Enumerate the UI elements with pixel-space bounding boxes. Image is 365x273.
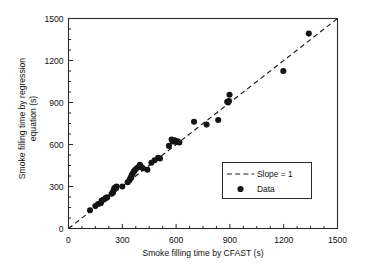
dashed-line-icon [223,167,257,181]
x-tick-label: 1500 [328,235,347,245]
x-tick-label: 1200 [274,235,293,245]
data-point [226,98,232,104]
x-tick-label: 0 [66,235,71,245]
figure-container: Smoke filling time by regression equatio… [0,0,365,273]
data-point [87,207,93,213]
data-point [306,31,312,37]
data-point [226,92,232,98]
legend-label-slope: Slope = 1 [257,169,293,179]
y-tick-label: 1200 [33,56,64,66]
legend-item-data: Data [223,181,311,197]
data-point [119,183,125,189]
y-tick-label: 600 [33,140,64,150]
filled-circle-icon [223,182,257,196]
data-point [215,117,221,123]
x-tick-label: 300 [115,235,129,245]
x-tick-label: 900 [223,235,237,245]
y-tick-label: 0 [33,224,64,234]
data-point [204,122,210,128]
data-point [114,183,120,189]
y-tick-label: 1500 [33,14,64,24]
data-point [157,155,163,161]
legend-item-slope: Slope = 1 [223,166,311,182]
data-point [191,119,197,125]
y-tick-label: 300 [33,182,64,192]
chart-legend: Slope = 1 Data [222,162,312,199]
x-tick-label: 600 [169,235,183,245]
data-point [280,68,286,74]
data-point [144,167,150,173]
legend-label-data: Data [257,184,275,194]
y-tick-label: 900 [33,98,64,108]
data-point [176,139,182,145]
